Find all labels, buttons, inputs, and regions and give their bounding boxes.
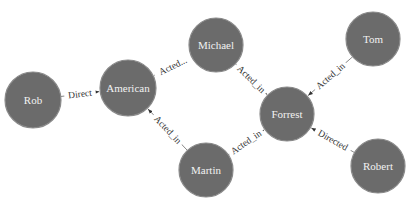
node-american[interactable]: American [100,60,156,116]
edge-label-group: Acted... [152,52,194,81]
edge-michael-american[interactable]: Acted... [152,52,194,81]
graph-canvas[interactable]: DirectActed...Acted_inActed_inActed_inAc… [0,0,411,204]
edge-label-group: Direct [64,86,97,102]
node-circle[interactable] [100,60,156,116]
nodes-layer: RobAmericanMichaelForrestTomMartinRobert [5,12,405,197]
edge-label: Acted_in [152,114,183,146]
edge-label-group: Acted_in [311,58,350,94]
node-circle[interactable] [179,143,233,197]
edge-rob-american[interactable]: Direct [61,86,99,102]
node-circle[interactable] [189,18,243,72]
node-circle[interactable] [5,72,61,128]
node-circle[interactable] [260,87,314,141]
edge-martin-forrest[interactable]: Acted_in [226,126,266,159]
node-circle[interactable] [346,12,400,66]
edge-michael-forrest[interactable]: Acted_in [232,61,270,98]
edge-label-group: Acted_in [232,61,270,98]
edge-label: Acted... [157,55,188,77]
edge-tom-forrest[interactable]: Acted_in [308,57,353,96]
node-circle[interactable] [351,139,405,193]
edge-label: Acted_in [314,61,347,92]
edge-label: Acted_in [229,128,264,156]
edge-label-group: Directed [312,125,353,156]
node-forrest[interactable]: Forrest [260,87,314,141]
node-michael[interactable]: Michael [189,18,243,72]
edge-label-group: Acted_in [149,111,186,149]
edge-martin-american[interactable]: Acted_in [148,109,187,150]
node-robert[interactable]: Robert [351,139,405,193]
edge-robert-forrest[interactable]: Directed [311,125,354,156]
node-tom[interactable]: Tom [346,12,400,66]
node-martin[interactable]: Martin [179,143,233,197]
edge-label: Acted_in [235,63,267,95]
node-rob[interactable]: Rob [5,72,61,128]
edge-label-group: Acted_in [226,126,266,159]
